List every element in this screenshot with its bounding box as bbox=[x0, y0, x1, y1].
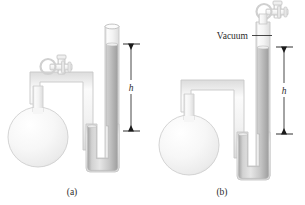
panel-caption-a: (a) bbox=[67, 187, 78, 198]
valve-flange2-a bbox=[68, 62, 71, 72]
flask-neck-seam-a bbox=[33, 108, 43, 114]
valve-flange-b bbox=[278, 6, 281, 18]
flask-neck-seam-b bbox=[184, 116, 194, 122]
vacuum-label: Vacuum bbox=[217, 31, 249, 41]
mercury-meniscus-right-b bbox=[257, 46, 268, 49]
figure-canvas: h (a) bbox=[0, 0, 305, 205]
panel-caption-b: (b) bbox=[216, 187, 227, 198]
mercury-meniscus-right-a bbox=[106, 43, 117, 46]
flask-a bbox=[8, 107, 68, 167]
valve-cap-a bbox=[57, 55, 66, 59]
valve-cap-b bbox=[273, 1, 282, 5]
height-label-a: h bbox=[129, 83, 134, 93]
manometer-figure: h (a) bbox=[0, 0, 305, 205]
valve-downstem-b bbox=[259, 14, 267, 24]
open-tube-rim-a bbox=[105, 24, 119, 29]
valve-flange2-b bbox=[284, 7, 287, 17]
mercury-meniscus-left-a bbox=[88, 125, 97, 128]
mercury-meniscus-left-b bbox=[239, 133, 248, 136]
valve-flange-a bbox=[62, 61, 65, 73]
flask-b bbox=[159, 115, 219, 175]
height-label-b: h bbox=[282, 86, 287, 96]
